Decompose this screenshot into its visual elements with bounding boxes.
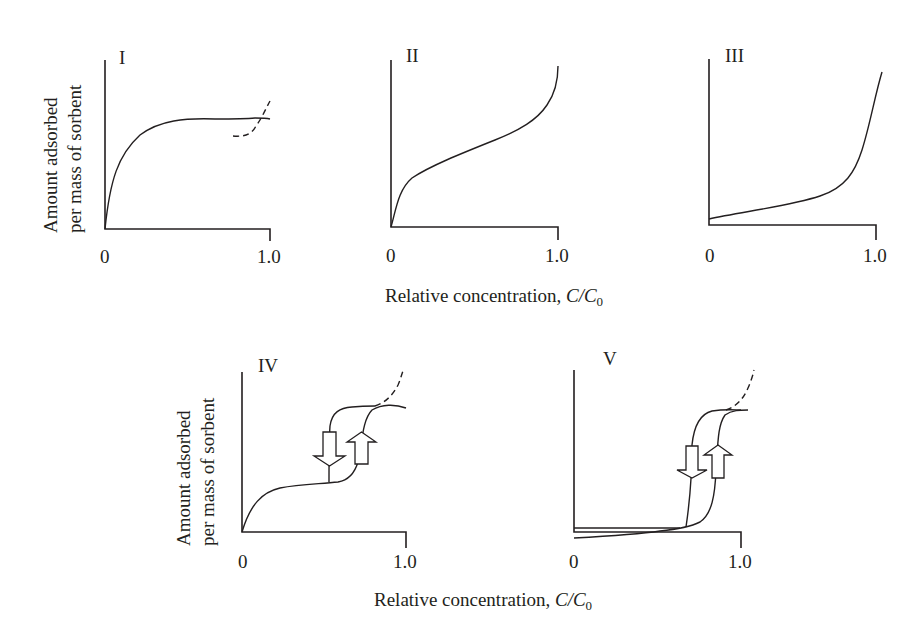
- tick-1: 1.0: [393, 551, 417, 572]
- svg-text:per mass of sorbent: per mass of sorbent: [64, 84, 85, 233]
- y-axis-label-bottom: Amount adsorbed per mass of sorbent: [173, 397, 218, 546]
- panel-III-axes: [709, 59, 876, 240]
- tick-1: 1.0: [257, 246, 281, 267]
- panel-III-isotherm: [709, 72, 882, 219]
- isotherm-figure: Amount adsorbed per mass of sorbent I 0 …: [0, 0, 924, 638]
- tick-1: 1.0: [545, 245, 569, 266]
- y-axis-label-top: Amount adsorbed per mass of sorbent: [40, 84, 85, 233]
- tick-0: 0: [386, 245, 396, 266]
- panel-I: I 0 1.0: [100, 47, 281, 267]
- panel-IV-dashed-extension: [375, 368, 404, 406]
- desorption-arrow-down-icon: [314, 432, 345, 466]
- panel-label-II: II: [406, 45, 419, 66]
- x-axis-label-bottom: Relative concentration, C/C0: [374, 589, 592, 613]
- tick-0: 0: [705, 245, 715, 266]
- tick-1: 1.0: [863, 245, 887, 266]
- tick-1: 1.0: [728, 551, 752, 572]
- panel-II: II 0 1.0: [386, 45, 569, 266]
- tick-0: 0: [100, 246, 110, 267]
- desorption-arrow-down-icon: [677, 446, 707, 478]
- tick-0: 0: [569, 551, 579, 572]
- panel-label-III: III: [725, 45, 744, 66]
- panel-V: V 0 1.0: [569, 348, 754, 572]
- panel-IV: IV 0 1.0: [238, 355, 417, 572]
- panel-III: III 0 1.0: [705, 45, 887, 266]
- panel-II-axes: [391, 60, 558, 240]
- panel-label-V: V: [603, 348, 617, 369]
- svg-text:Amount adsorbed: Amount adsorbed: [173, 410, 194, 546]
- tick-0: 0: [238, 551, 248, 572]
- panel-II-isotherm: [391, 66, 558, 227]
- svg-text:per mass of sorbent: per mass of sorbent: [197, 397, 218, 546]
- panel-I-axes: [105, 60, 270, 241]
- adsorption-arrow-up-icon: [704, 445, 732, 478]
- svg-text:Amount adsorbed: Amount adsorbed: [40, 97, 61, 233]
- panel-label-IV: IV: [258, 355, 278, 376]
- panel-IV-adsorption-branch: [242, 405, 406, 532]
- panel-label-I: I: [119, 47, 125, 68]
- x-axis-label-top: Relative concentration, C/C0: [385, 285, 603, 309]
- adsorption-arrow-up-icon: [347, 432, 376, 464]
- panel-V-dashed-extension: [726, 370, 754, 410]
